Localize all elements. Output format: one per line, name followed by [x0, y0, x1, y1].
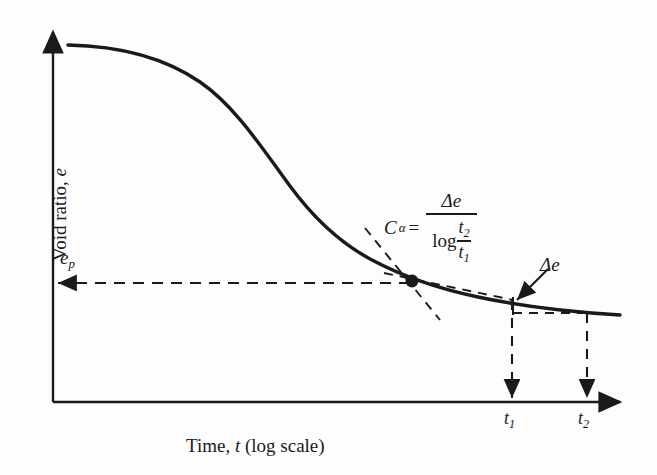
formula-time-ratio: t2 t1 — [457, 217, 470, 266]
formula-time-ratio-numerator: t2 — [457, 217, 470, 241]
formula-numerator: Δe — [436, 190, 468, 213]
t1-label-subscript: 1 — [509, 417, 515, 431]
t2-label-subscript: 2 — [583, 417, 589, 431]
formula-lhs-symbol: C — [384, 217, 397, 239]
inflection-point-dot — [406, 275, 419, 288]
formula-equals-sign: = — [408, 217, 419, 239]
formula-denominator: log t2 t1 — [426, 215, 476, 266]
formula-t2-subscript: 2 — [463, 225, 469, 239]
x-axis-title-suffix: (log scale) — [240, 435, 324, 456]
formula-log-operator: log — [432, 230, 456, 252]
x-axis-title-prefix: Time, — [186, 435, 235, 456]
formula-t1-subscript: 1 — [463, 251, 469, 265]
delta-e-label: Δe — [540, 255, 560, 274]
ep-label: ep — [60, 248, 75, 271]
x-axis-title: Time, t (log scale) — [186, 436, 325, 455]
y-axis-title: Void ratio, e — [50, 120, 69, 310]
y-axis-title-variable: e — [49, 168, 70, 176]
t1-label: t1 — [504, 409, 515, 430]
diagram-canvas — [0, 0, 657, 475]
secondary-compression-index-formula: Cα = Δe log t2 t1 — [384, 190, 477, 266]
ep-label-subscript: p — [68, 256, 74, 271]
consolidation-curve-figure: Void ratio, e Time, t (log scale) ep t1 … — [0, 0, 657, 475]
formula-lhs-subscript: α — [399, 220, 406, 236]
t2-label: t2 — [578, 409, 589, 430]
consolidation-curve — [68, 45, 620, 315]
formula-log-row: log t2 t1 — [432, 217, 470, 266]
formula-time-ratio-denominator: t1 — [457, 242, 470, 266]
formula-fraction: Δe log t2 t1 — [426, 190, 476, 266]
secondary-compression-tangent — [384, 273, 513, 300]
